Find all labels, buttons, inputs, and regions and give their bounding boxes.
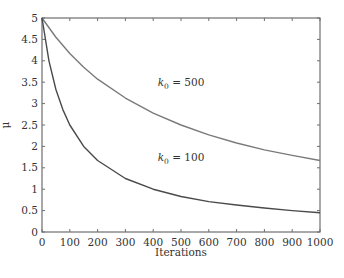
x-tick-label: 200 (88, 236, 108, 248)
y-tick-label: 4 (31, 54, 38, 66)
x-tick-label: 1000 (307, 236, 334, 248)
y-axis: 00.511.522.533.544.55 (21, 12, 320, 238)
y-tick-label: 2 (31, 140, 38, 152)
series-line (42, 18, 320, 213)
y-tick-label: 3.5 (21, 76, 38, 88)
line-chart: 01002003004005006007008009001000 00.511.… (0, 0, 344, 278)
x-axis-label: Iterations (155, 246, 207, 258)
y-tick-label: 2.5 (21, 119, 38, 131)
x-tick-label: 300 (115, 236, 135, 248)
x-tick-label: 900 (282, 236, 302, 248)
x-tick-label: 0 (39, 236, 46, 248)
y-tick-label: 4.5 (21, 33, 38, 45)
y-tick-label: 3 (31, 97, 38, 109)
series-annotation: k0 = 500 (158, 76, 205, 91)
series-group (42, 18, 320, 213)
x-tick-label: 700 (227, 236, 247, 248)
annotations: k0 = 500k0 = 100 (158, 76, 205, 166)
series-annotation: k0 = 100 (158, 151, 205, 166)
x-axis: 01002003004005006007008009001000 (39, 18, 334, 248)
series-line (42, 18, 320, 161)
x-tick-label: 100 (60, 236, 80, 248)
y-tick-label: 0.5 (21, 204, 38, 216)
y-tick-label: 1.5 (21, 161, 38, 173)
y-tick-label: 0 (31, 226, 38, 238)
y-tick-label: 5 (31, 12, 38, 24)
y-tick-label: 1 (31, 183, 38, 195)
y-axis-label: μ (0, 121, 11, 128)
x-tick-label: 800 (254, 236, 274, 248)
